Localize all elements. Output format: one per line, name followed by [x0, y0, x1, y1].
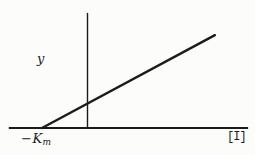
y-axis-label: y — [37, 51, 44, 66]
x-intercept-label: −Km — [21, 131, 52, 146]
x-axis-label: [I] — [227, 130, 246, 144]
x-intercept-label-subscript: m — [43, 137, 52, 147]
x-intercept-label-base: −K — [21, 131, 43, 146]
dixon-plot-figure: y −Km [I] — [0, 0, 255, 155]
series-line — [42, 35, 215, 128]
